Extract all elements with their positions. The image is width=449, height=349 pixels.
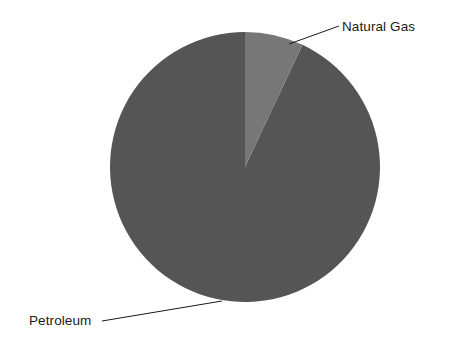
label-natural-gas: Natural Gas [342, 19, 415, 34]
pie-slice-petroleum[interactable] [110, 32, 380, 302]
pie-chart-canvas: Natural Gas Petroleum [0, 0, 449, 349]
label-petroleum: Petroleum [29, 313, 91, 328]
pie-chart-figure: Natural Gas Petroleum [0, 0, 449, 349]
